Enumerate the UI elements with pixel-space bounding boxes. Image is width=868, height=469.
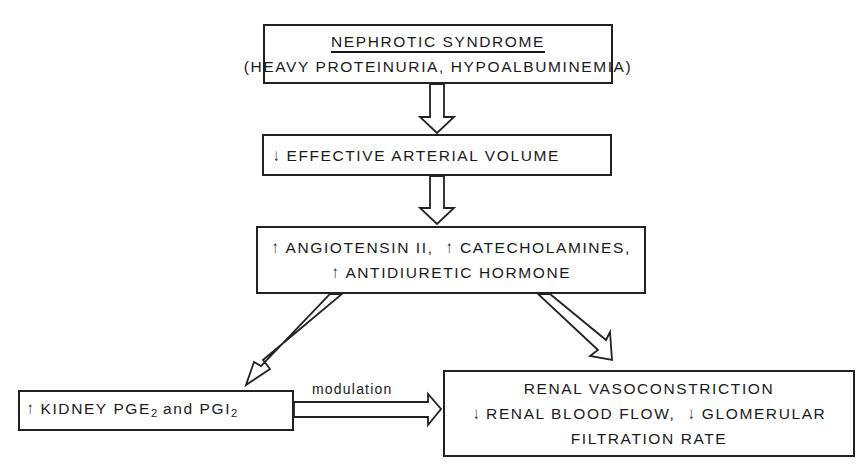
hormone-adh: ANTIDIURETIC HORMONE <box>345 264 571 281</box>
node-title: NEPHROTIC SYNDROME <box>331 29 545 54</box>
renal-line-1: RENAL VASOCONSTRICTION <box>524 376 775 401</box>
arrow-down-icon: ↓ <box>688 401 695 426</box>
node-renal-vasoconstriction: RENAL VASOCONSTRICTION ↓RENAL BLOOD FLOW… <box>443 370 855 457</box>
arrow-down-2 <box>420 176 454 224</box>
pg-subscript: 2 <box>231 407 237 419</box>
arrow-up-icon: ↑ <box>272 235 279 260</box>
node-hormones: ↑ANGIOTENSIN II, ↑CATECHOLAMINES, ↑ANTID… <box>256 226 646 294</box>
hormone-catecholamines: CATECHOLAMINES, <box>460 239 631 256</box>
arrow-down-icon: ↓ <box>273 143 280 168</box>
renal-line-2b: GLOMERULAR <box>702 405 827 422</box>
node-kidney-prostaglandins: ↑KIDNEY PGE2 and PGI2 <box>18 390 294 431</box>
modulation-label: modulation <box>312 381 393 397</box>
arrow-up-icon: ↑ <box>446 235 453 260</box>
pg-label-prefix: KIDNEY PGE <box>41 400 151 417</box>
pg-label-middle: and PGI <box>157 400 231 417</box>
renal-line-2a: RENAL BLOOD FLOW, <box>486 405 675 422</box>
arrow-up-icon: ↑ <box>27 396 34 421</box>
node-nephrotic-syndrome: NEPHROTIC SYNDROME (HEAVY PROTEINURIA, H… <box>263 24 613 84</box>
arrow-diag-right <box>538 294 612 360</box>
node-label: EFFECTIVE ARTERIAL VOLUME <box>287 147 560 164</box>
arrow-down-1 <box>420 84 454 133</box>
arrow-down-icon: ↓ <box>472 401 479 426</box>
node-subtitle: (HEAVY PROTEINURIA, HYPOALBUMINEMIA) <box>244 54 633 79</box>
arrow-modulation <box>294 394 441 425</box>
renal-line-3: FILTRATION RATE <box>571 426 728 451</box>
hormone-angiotensin: ANGIOTENSIN II, <box>286 239 434 256</box>
node-effective-arterial-volume: ↓EFFECTIVE ARTERIAL VOLUME <box>262 134 612 176</box>
arrow-diag-left <box>246 294 342 385</box>
arrow-up-icon: ↑ <box>332 260 339 285</box>
